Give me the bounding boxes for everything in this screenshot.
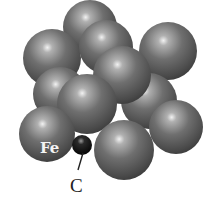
- lattice-svg: Fe C: [0, 0, 212, 206]
- iron-carbon-lattice-diagram: Fe C: [0, 0, 212, 206]
- carbon-leader-line: [78, 153, 83, 170]
- carbon-atom: [72, 135, 92, 155]
- fe-label: Fe: [40, 139, 59, 157]
- iron-atom: [149, 100, 203, 154]
- iron-atom: [94, 120, 154, 180]
- c-label: C: [70, 175, 83, 196]
